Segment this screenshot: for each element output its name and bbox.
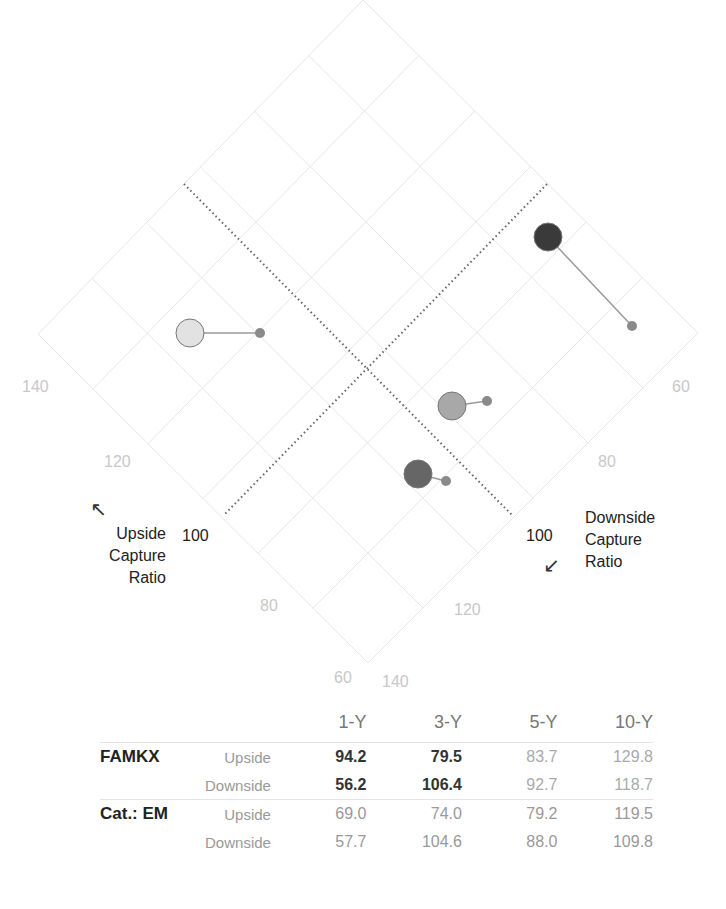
header-empty bbox=[190, 708, 270, 743]
cell: 119.5 bbox=[557, 800, 653, 829]
category-point-10-Y bbox=[255, 328, 265, 338]
tick-downside-120: 120 bbox=[454, 601, 481, 618]
cell: 94.2 bbox=[271, 743, 367, 772]
connector-line bbox=[548, 237, 632, 326]
category-point-5-Y bbox=[482, 396, 492, 406]
empty-cell bbox=[100, 828, 190, 856]
table-row: FAMKX Upside 94.2 79.5 83.7 129.8 bbox=[100, 743, 653, 772]
header-3y: 3-Y bbox=[366, 708, 462, 743]
header-1y: 1-Y bbox=[271, 708, 367, 743]
tick-upside-100: 100 bbox=[182, 527, 209, 544]
row-label: Downside bbox=[190, 771, 270, 800]
upside-axis-title: Upside Capture Ratio bbox=[76, 523, 166, 589]
downside-title-line: Downside bbox=[585, 507, 655, 529]
downside-title-line: Capture bbox=[585, 529, 655, 551]
table-row: Downside 56.2 106.4 92.7 118.7 bbox=[100, 771, 653, 800]
upside-title-line: Capture bbox=[76, 545, 166, 567]
cell: 106.4 bbox=[366, 771, 462, 800]
header-empty bbox=[100, 708, 190, 743]
empty-cell bbox=[100, 771, 190, 800]
tick-downside-80: 80 bbox=[598, 453, 616, 470]
downside-title-line: Ratio bbox=[585, 551, 655, 573]
downside-100-line bbox=[224, 184, 547, 515]
upside-arrow-icon: ↖ bbox=[90, 499, 107, 519]
tick-upside-140: 140 bbox=[22, 378, 49, 395]
header-10y: 10-Y bbox=[557, 708, 653, 743]
tick-upside-60: 60 bbox=[334, 669, 352, 686]
tick-upside-80: 80 bbox=[260, 597, 278, 614]
category-name: Cat.: EM bbox=[100, 800, 190, 829]
fund-name: FAMKX bbox=[100, 743, 190, 772]
tick-upside-120: 120 bbox=[104, 453, 131, 470]
downside-axis-title: Downside Capture Ratio bbox=[585, 507, 655, 573]
fund-point-10-Y bbox=[176, 319, 204, 347]
category-point-1-Y bbox=[627, 321, 637, 331]
cell: 88.0 bbox=[462, 828, 558, 856]
upside-100-line bbox=[184, 184, 512, 515]
cell: 57.7 bbox=[271, 828, 367, 856]
downside-arrow-icon: ↙ bbox=[543, 555, 560, 575]
capture-ratio-table: 1-Y 3-Y 5-Y 10-Y FAMKX Upside 94.2 79.5 … bbox=[100, 708, 653, 856]
upside-title-line: Upside bbox=[76, 523, 166, 545]
cell: 109.8 bbox=[557, 828, 653, 856]
table-header-row: 1-Y 3-Y 5-Y 10-Y bbox=[100, 708, 653, 743]
tick-downside-100: 100 bbox=[526, 527, 553, 544]
cell: 79.2 bbox=[462, 800, 558, 829]
fund-point-3-Y bbox=[404, 460, 432, 488]
table-row: Downside 57.7 104.6 88.0 109.8 bbox=[100, 828, 653, 856]
cell: 129.8 bbox=[557, 743, 653, 772]
upside-title-line: Ratio bbox=[76, 567, 166, 589]
cell: 56.2 bbox=[271, 771, 367, 800]
grid-line bbox=[38, 334, 368, 663]
capture-ratio-chart: 140 120 100 80 60 60 80 100 120 140 bbox=[0, 0, 726, 700]
cell: 79.5 bbox=[366, 743, 462, 772]
cell: 92.7 bbox=[462, 771, 558, 800]
fund-point-1-Y bbox=[534, 223, 562, 251]
grid-line bbox=[146, 223, 478, 553]
header-5y: 5-Y bbox=[462, 708, 558, 743]
cell: 69.0 bbox=[271, 800, 367, 829]
fund-point-5-Y bbox=[438, 392, 466, 420]
row-label: Upside bbox=[190, 800, 270, 829]
grid-line bbox=[258, 222, 586, 553]
tick-downside-140: 140 bbox=[382, 673, 409, 690]
cell: 83.7 bbox=[462, 743, 558, 772]
row-label: Upside bbox=[190, 743, 270, 772]
cell: 74.0 bbox=[366, 800, 462, 829]
tick-downside-60: 60 bbox=[672, 378, 690, 395]
row-label: Downside bbox=[190, 828, 270, 856]
table-row: Cat.: EM Upside 69.0 74.0 79.2 119.5 bbox=[100, 800, 653, 829]
cell: 104.6 bbox=[366, 828, 462, 856]
cell: 118.7 bbox=[557, 771, 653, 800]
category-point-3-Y bbox=[441, 476, 451, 486]
